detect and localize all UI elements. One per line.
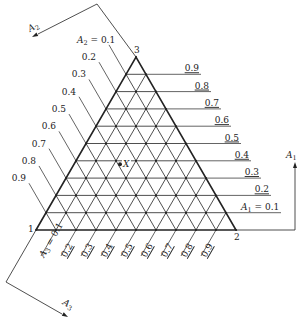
a1-arrow-icon — [293, 162, 297, 168]
a1-tick-label: 0.2 — [255, 184, 269, 194]
a2-tick-label: 0.4 — [62, 87, 77, 97]
grid-node — [125, 108, 127, 110]
grid-line-a2 — [216, 213, 226, 230]
grid-node — [175, 160, 177, 162]
grid-line-a2 — [176, 178, 206, 230]
grid-node — [75, 194, 77, 196]
grid-node — [105, 177, 107, 179]
a2-extension-line — [99, 62, 116, 91]
a2-axis-line — [38, 4, 136, 57]
grid-node — [95, 160, 97, 162]
grid-node — [135, 194, 137, 196]
grid-node — [105, 143, 107, 145]
a2-extension-line — [49, 149, 66, 178]
grid-node — [95, 194, 97, 196]
a1-axis-line — [236, 168, 295, 230]
a2-tick-label: 0.9 — [12, 173, 27, 183]
grid-node — [165, 212, 167, 214]
a2-extension-line — [109, 45, 126, 74]
grid-node — [145, 143, 147, 145]
grid-node — [105, 212, 107, 214]
a2-extension-line — [79, 97, 96, 126]
grid-node — [185, 177, 187, 179]
tick-labels: A1 = 0.10.20.30.40.50.60.70.80.9A2 = 0.1… — [12, 20, 297, 313]
grid-node — [125, 143, 127, 145]
a2-extension-line — [29, 183, 46, 212]
grid-node — [175, 194, 177, 196]
grid-node — [115, 194, 117, 196]
grid-node — [205, 212, 207, 214]
vertex-3-label: 3 — [134, 45, 140, 55]
a1-tick-label: 0.4 — [235, 150, 250, 160]
grid-node — [155, 160, 157, 162]
grid-node — [125, 177, 127, 179]
a3-arrow-icon — [62, 312, 68, 317]
a1-label-first: A1 = 0.1 — [240, 202, 279, 214]
grid-node — [135, 125, 137, 127]
a2-tick-label: 0.7 — [32, 139, 47, 149]
grid-node — [165, 143, 167, 145]
a2-extension-line — [39, 166, 56, 195]
grid-node — [115, 160, 117, 162]
a2-arrow-icon — [32, 33, 38, 37]
a2-tick-label: 0.3 — [72, 69, 87, 79]
grid-node — [195, 194, 197, 196]
a3-tick-label: 0.9 — [199, 241, 215, 259]
ternary-diagram: A1 = 0.10.20.30.40.50.60.70.80.9A2 = 0.1… — [0, 0, 302, 319]
grid-node — [145, 212, 147, 214]
grid-node — [185, 212, 187, 214]
a3-tick-label: 0.8 — [179, 241, 195, 259]
grid-node — [115, 125, 117, 127]
a1-tick-label: 0.3 — [245, 167, 260, 177]
grid-node — [65, 212, 67, 214]
grid-node — [145, 177, 147, 179]
a3-tick-label: 0.7 — [159, 241, 175, 259]
a1-tick-label: 0.5 — [225, 133, 240, 143]
a3-tick-label: 0.5 — [119, 241, 135, 259]
a2-tick-label: 0.2 — [82, 52, 96, 62]
grid-line-a3 — [86, 144, 136, 231]
a1-tick-label: 0.8 — [195, 81, 210, 91]
a2-tick-label: 0.6 — [42, 121, 57, 131]
a3-tick-label: 0.4 — [99, 241, 115, 259]
grid-node — [85, 177, 87, 179]
grid-node — [135, 91, 137, 93]
grid-node — [85, 212, 87, 214]
grid-node — [165, 177, 167, 179]
grid-line-a3 — [126, 74, 216, 230]
a3-axis-label: A3 — [59, 297, 75, 313]
a3-tick-label: 0.3 — [79, 241, 95, 259]
grid-node — [155, 125, 157, 127]
a3-tick-label: 0.6 — [139, 241, 155, 259]
vertex-1-label: 1 — [28, 224, 34, 234]
a2-tick-label: 0.8 — [22, 156, 37, 166]
a1-tick-label: 0.9 — [185, 63, 200, 73]
point-x-label: X — [122, 159, 130, 169]
grid-node — [125, 212, 127, 214]
a2-extension-line — [59, 131, 76, 160]
grid-line-a2 — [56, 74, 146, 230]
a1-axis-label: A1 — [285, 150, 297, 162]
grid-line-a3 — [66, 178, 96, 230]
a3-tick-label: 0.2 — [59, 242, 75, 259]
a2-extension-line — [69, 114, 86, 143]
grid-node — [135, 160, 137, 162]
a1-tick-label: 0.7 — [205, 98, 220, 108]
point-x-marker — [118, 162, 122, 166]
grid-node — [145, 108, 147, 110]
a1-tick-label: 0.6 — [215, 115, 230, 125]
a2-tick-label: 0.5 — [52, 104, 67, 114]
grid-line-a2 — [136, 144, 186, 231]
vertex-2-label: 2 — [234, 232, 240, 242]
grid-node — [155, 194, 157, 196]
a2-extension-line — [89, 79, 106, 108]
